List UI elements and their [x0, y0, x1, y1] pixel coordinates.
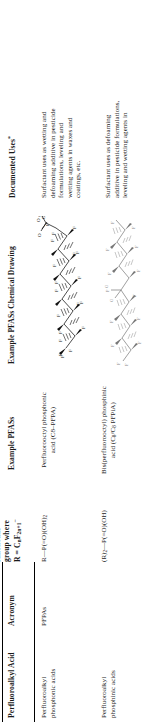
row1-acid-name: Perfluoroalkyl phosphonic acids [40, 658, 57, 718]
column-header-documented-uses: Documented Uses* [7, 78, 17, 198]
row2-chemical-structure: P O O FF FF FF FF FF FF F [98, 212, 156, 370]
fg-sub-n: n [15, 539, 21, 542]
svg-text:F: F [76, 302, 81, 305]
svg-text:F: F [56, 314, 61, 317]
functional-header-line3: R = CnF2n+1− [12, 492, 23, 562]
row2-uses-line-1: additive in pesticide formulations, [113, 8, 122, 198]
row2-fg-prefix: (R) [100, 553, 108, 562]
label-O-double: O [37, 233, 42, 237]
row1-uses-line-1: defoaming additive in pesticide [49, 18, 58, 198]
svg-text:F: F [110, 221, 115, 224]
svg-text:F: F [107, 272, 112, 275]
svg-text:F: F [54, 289, 59, 292]
table-rule-top [2, 562, 3, 722]
column-header-acronym: Acronym [7, 566, 16, 626]
fg-prefix: R = C [12, 542, 21, 562]
svg-text:F: F [58, 339, 63, 342]
row2-acid-name-line2: phosphinic acids [109, 658, 118, 718]
row1-uses-line-4: coatings, etc. [74, 18, 83, 198]
row1-fg-sub: 2 [43, 515, 48, 518]
svg-text:F: F [137, 341, 142, 344]
svg-text:P: P [105, 289, 110, 292]
row1-chemical-structure: P O O ⊖ OH FF FF FF FF FF FF FF FF FF [36, 216, 96, 366]
row1-functional-group: R—P(=O)(OH)2 [40, 488, 49, 562]
svg-text:F: F [109, 320, 114, 323]
rotated-page-wrapper: Perfluoroalkyl Acid Perfluoroalkyl phosp… [0, 0, 160, 722]
row1-acronym: PFPAs [40, 574, 49, 626]
row2-example-line1: Bis(perfluorooctyl) phosphinic [100, 382, 109, 478]
row2-ex-prefix: acid (C [109, 437, 117, 458]
row2-documented-uses: Surfactant uses as defoaming additive in… [104, 8, 130, 198]
row2-acid-name: Perfluoroalkyl phosphinic acids [100, 658, 117, 718]
row1-acid-name-line1: Perfluoroalkyl [40, 658, 49, 718]
svg-text:F: F [131, 226, 136, 229]
row1-structure-svg: P O O ⊖ OH FF FF FF FF FF FF FF FF FF [36, 216, 96, 366]
row1-uses-line-2: formulations, leveling and [57, 18, 66, 198]
svg-text:F: F [60, 355, 65, 358]
svg-text:F: F [136, 317, 141, 320]
fg-sub-2n1: 2n+1 [15, 522, 21, 534]
row2-uses-line-2: leveling and wetting agents in [121, 8, 130, 198]
svg-text:O: O [109, 298, 114, 302]
row2-functional-group: (R)2—P(=O)(OH) [100, 482, 109, 562]
row1-fg-main: R—P(=O)(OH) [40, 517, 48, 562]
svg-text:F: F [72, 226, 77, 229]
documented-uses-text: Documented Uses [8, 139, 17, 198]
svg-text:F: F [54, 281, 59, 284]
svg-text:F: F [110, 344, 115, 347]
row2-fg-prefix-sub: 2 [103, 550, 108, 553]
row2-uses-line-0: Surfactant uses as defoaming [104, 8, 113, 198]
column-header-perfluoroalkyl-acid: Perfluoroalkyl Acid [7, 640, 16, 718]
svg-text:F: F [51, 232, 56, 235]
column-header-chemical-drawing: Example PFASs Chemical Drawing [7, 204, 16, 364]
svg-text:F: F [68, 349, 73, 352]
svg-text:F: F [132, 294, 137, 297]
row1-documented-uses: Surfactant uses as wetting and defoaming… [40, 18, 83, 198]
row2-fg-main: —P(=O)(OH) [100, 510, 108, 550]
row1-uses-line-0: Surfactant uses as wetting and [40, 18, 49, 198]
row1-uses-line-3: wetting agents in waxes and [66, 18, 75, 198]
fg-mid-F: F [12, 535, 21, 540]
row2-ex-mid: /C [109, 428, 117, 435]
column-header-example-pfass: Example PFASs [7, 400, 16, 470]
row1-example-line1: Perfluorooctyl phosphonic [40, 384, 49, 476]
svg-text:F: F [77, 276, 82, 279]
row2-structure-svg: P O O FF FF FF FF FF FF F [98, 212, 156, 370]
svg-text:O: O [104, 284, 109, 288]
row2-example-pfas: Bis(perfluorooctyl) phosphinic acid (C8/… [100, 382, 118, 478]
svg-text:F: F [81, 326, 86, 329]
pfas-table: Perfluoroalkyl Acid Perfluoroalkyl phosp… [0, 0, 160, 722]
row1-example-pfas: Perfluorooctyl phosphonic acid (C8–PFPA) [40, 384, 57, 476]
table-rule-header [34, 562, 35, 722]
label-P: P [45, 223, 50, 226]
label-OH: OH [41, 216, 46, 219]
row1-example-line2: acid (C8–PFPA) [49, 384, 58, 476]
row1-acid-name-line2: phosphonic acids [49, 658, 58, 718]
row2-ex-suffix: PFPiA) [109, 402, 117, 425]
functional-header-line2: group where [2, 492, 11, 562]
svg-text:F: F [72, 252, 77, 255]
row2-example-line2: acid (C8/C8 PFPiA) [109, 382, 118, 478]
fg-sup-minus: − [12, 519, 18, 522]
svg-text:F: F [105, 248, 110, 251]
column-header-functional-group: functional group where R = CnF2n+1− [0, 492, 22, 562]
row2-acid-name-line1: Perfluoroalkyl [100, 658, 109, 718]
svg-text:F: F [134, 245, 139, 248]
row2-ex-sub2: 8 [112, 425, 117, 428]
svg-text:F: F [58, 331, 63, 334]
svg-text:F: F [136, 269, 141, 272]
svg-text:F: F [52, 264, 57, 267]
documented-uses-footnote-marker: * [7, 136, 13, 139]
svg-text:F: F [116, 362, 121, 365]
svg-text:F: F [50, 239, 55, 242]
svg-text:F: F [124, 363, 129, 366]
